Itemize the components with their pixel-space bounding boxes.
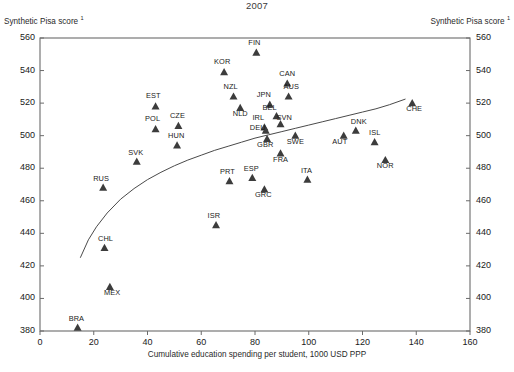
data-point-label: CHL <box>98 234 113 243</box>
data-point-label: DNK <box>351 117 367 126</box>
data-marker[interactable] <box>74 324 82 331</box>
x-tick-label: 120 <box>348 337 378 347</box>
x-tick-label: 20 <box>79 337 109 347</box>
y-tick-label: 400 <box>5 292 35 302</box>
data-point-label: HUN <box>168 131 184 140</box>
y-tick-label-right: 560 <box>476 32 506 42</box>
y-tick-label-right: 460 <box>476 195 506 205</box>
y-tick-label-right: 540 <box>476 65 506 75</box>
x-tick-label: 80 <box>240 337 270 347</box>
data-point-label: MEX <box>104 288 120 297</box>
data-point-label: EST <box>146 91 161 100</box>
y-tick-label: 380 <box>5 325 35 335</box>
x-tick-label: 40 <box>133 337 163 347</box>
x-tick-marks <box>40 331 470 335</box>
data-point-label: BEL <box>263 103 277 112</box>
data-marker[interactable] <box>352 127 360 134</box>
data-marker[interactable] <box>99 184 107 191</box>
data-marker[interactable] <box>152 102 160 109</box>
data-marker[interactable] <box>285 92 293 99</box>
data-point-label: RUS <box>93 174 109 183</box>
data-point-label: BRA <box>69 314 85 323</box>
x-tick-label: 140 <box>401 337 431 347</box>
y-tick-label-right: 480 <box>476 162 506 172</box>
data-point-label: CZE <box>170 111 185 120</box>
y-tick-label: 480 <box>5 162 35 172</box>
data-point-label: POL <box>145 114 160 123</box>
y-tick-label-right: 400 <box>476 292 506 302</box>
data-point-label: NLD <box>233 109 248 118</box>
data-point-label: SWE <box>287 137 304 146</box>
data-marker[interactable] <box>152 125 160 132</box>
y-tick-label: 420 <box>5 260 35 270</box>
data-marker[interactable] <box>173 141 181 148</box>
data-point-label: DEU <box>250 123 266 132</box>
data-point-label: JPN <box>257 90 271 99</box>
y-tick-label: 440 <box>5 227 35 237</box>
data-point-label: FIN <box>248 38 260 47</box>
y-tick-label: 460 <box>5 195 35 205</box>
x-tick-label: 100 <box>294 337 324 347</box>
data-marker[interactable] <box>230 92 238 99</box>
x-tick-label: 60 <box>186 337 216 347</box>
data-marker[interactable] <box>225 177 233 184</box>
y-tick-label-right: 420 <box>476 260 506 270</box>
data-markers <box>74 48 417 330</box>
y-tick-label-right: 440 <box>476 227 506 237</box>
data-point-label: ITA <box>301 166 312 175</box>
y-tick-label: 520 <box>5 97 35 107</box>
data-point-label: ISL <box>369 128 380 137</box>
data-point-label: CHE <box>406 104 422 113</box>
y-tick-label: 560 <box>5 32 35 42</box>
data-point-label: KOR <box>214 57 230 66</box>
y-tick-label-right: 520 <box>476 97 506 107</box>
data-marker[interactable] <box>133 158 141 165</box>
x-axis-title: Cumulative education spending per studen… <box>0 350 514 359</box>
data-point-label: GRC <box>255 190 272 199</box>
y-tick-marks <box>40 38 470 331</box>
y-tick-label: 500 <box>5 130 35 140</box>
data-point-label: NZL <box>224 82 238 91</box>
data-point-label: GBR <box>257 140 273 149</box>
data-marker[interactable] <box>212 221 220 228</box>
data-point-label: NOR <box>377 161 394 170</box>
data-point-label: FRA <box>273 155 288 164</box>
data-marker[interactable] <box>248 174 256 181</box>
plot-frame <box>40 38 470 331</box>
data-marker[interactable] <box>101 244 109 251</box>
data-marker[interactable] <box>303 175 311 182</box>
x-tick-label: 160 <box>455 337 485 347</box>
data-point-label: AUT <box>332 137 347 146</box>
data-marker[interactable] <box>220 68 228 75</box>
data-point-label: CAN <box>279 69 295 78</box>
data-point-label: SVK <box>128 148 143 157</box>
y-tick-label: 540 <box>5 65 35 75</box>
data-point-label: ESP <box>244 164 259 173</box>
y-tick-label-right: 380 <box>476 325 506 335</box>
data-marker[interactable] <box>174 122 182 129</box>
x-tick-label: 0 <box>25 337 55 347</box>
y-tick-label-right: 500 <box>476 130 506 140</box>
chart-figure: 2007 Synthetic Pisa score 1 Synthetic Pi… <box>0 0 514 372</box>
data-marker[interactable] <box>252 48 260 55</box>
data-point-label: PRT <box>220 167 235 176</box>
data-point-label: IRL <box>252 113 264 122</box>
data-point-label: AUS <box>284 82 300 91</box>
data-point-label: SVN <box>277 113 293 122</box>
data-marker[interactable] <box>371 138 379 145</box>
data-point-label: ISR <box>208 211 221 220</box>
